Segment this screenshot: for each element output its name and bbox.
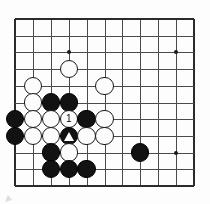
go-board-figure: 1 xyxy=(0,0,210,204)
stone-black[interactable] xyxy=(42,143,60,161)
stone-white[interactable] xyxy=(60,60,78,78)
stone-white[interactable] xyxy=(24,127,42,145)
stone-black[interactable] xyxy=(60,160,78,178)
star-point xyxy=(67,50,71,54)
go-board[interactable]: 1 xyxy=(0,0,210,204)
triangle-marker-icon xyxy=(64,132,74,141)
grid-line-horizontal xyxy=(15,185,194,187)
star-point xyxy=(174,50,178,54)
stone-white[interactable] xyxy=(95,127,113,145)
stone-black[interactable] xyxy=(60,127,78,145)
stone-black[interactable] xyxy=(131,143,149,161)
stone-black[interactable] xyxy=(42,160,60,178)
stone-white[interactable] xyxy=(42,110,60,128)
stone-white[interactable] xyxy=(42,127,60,145)
stone-black[interactable] xyxy=(60,93,78,111)
stone-white[interactable] xyxy=(24,93,42,111)
stone-black[interactable] xyxy=(77,110,95,128)
stone-black[interactable] xyxy=(42,93,60,111)
star-point xyxy=(174,151,178,155)
stone-black[interactable] xyxy=(6,110,24,128)
grid-line-horizontal xyxy=(15,52,194,53)
corner-smudge-icon xyxy=(4,194,14,203)
stone-white[interactable] xyxy=(95,77,113,95)
stone-white[interactable] xyxy=(60,143,78,161)
stone-white[interactable] xyxy=(24,77,42,95)
stone-white[interactable] xyxy=(77,127,95,145)
grid-line-horizontal xyxy=(15,36,194,37)
stone-white[interactable] xyxy=(24,110,42,128)
grid-line-horizontal xyxy=(15,69,194,70)
stone-white[interactable]: 1 xyxy=(60,110,78,128)
stone-white[interactable] xyxy=(95,110,113,128)
stone-move-label: 1 xyxy=(61,111,77,127)
stone-black[interactable] xyxy=(6,127,24,145)
grid-line-horizontal xyxy=(15,18,194,20)
stone-black[interactable] xyxy=(77,160,95,178)
